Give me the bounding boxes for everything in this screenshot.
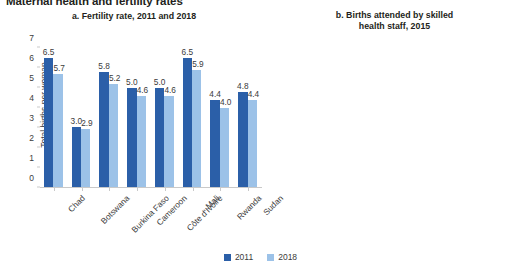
x-axis-tick-mark	[220, 188, 221, 191]
y-axis-tick-label: 7	[29, 33, 34, 43]
x-axis-category-label: Chad	[66, 193, 87, 214]
bar-value-label: 4.0	[220, 97, 232, 107]
bar-group: 3.02.9	[68, 48, 96, 187]
bar-value-label: 4.6	[164, 85, 176, 95]
bar-value-label: 2.9	[81, 118, 93, 128]
bar: 5.0	[155, 88, 164, 187]
x-axis-tick-mark	[248, 188, 249, 191]
panel-b-title: b. Births attended by skilled health sta…	[268, 10, 521, 32]
bar-group: 4.84.4	[234, 48, 262, 187]
bar-value-label: 4.4	[248, 89, 260, 99]
bar: 4.8	[238, 92, 247, 187]
figure-maternal-health: Maternal health and fertility rates a. F…	[0, 0, 521, 274]
bar-group: 6.55.7	[40, 48, 68, 187]
legend-item[interactable]: 2011	[224, 252, 253, 262]
x-axis-tick-mark	[165, 188, 166, 191]
bar: 5.9	[192, 70, 201, 187]
bar: 5.8	[99, 72, 108, 187]
bar: 2.9	[81, 129, 90, 187]
x-axis-line-a	[40, 187, 262, 188]
bar: 4.6	[137, 96, 146, 187]
y-axis-tick-label: 3	[29, 113, 34, 123]
x-axis-tick-mark	[109, 188, 110, 191]
y-axis-tick-label: 0	[29, 173, 34, 183]
bar-group: 5.04.6	[123, 48, 151, 187]
bar: 4.4	[248, 100, 257, 187]
x-axis-category-label: Botswana	[98, 193, 131, 226]
x-axis-tick-mark	[137, 188, 138, 191]
bar-value-label: 5.2	[109, 73, 121, 83]
bar: 6.5	[183, 58, 192, 187]
panel-b-title-line1: b. Births attended by skilled	[268, 10, 521, 21]
panel-skilled-births: b. Births attended by skilled health sta…	[268, 0, 521, 244]
y-axis-tick-label: 2	[29, 133, 34, 143]
legend-swatch-icon	[267, 254, 274, 261]
bar: 5.2	[109, 84, 118, 187]
y-axis-tick-label: 4	[29, 93, 34, 103]
bar: 4.4	[210, 100, 219, 187]
bar: 4.0	[220, 108, 229, 187]
legend-item[interactable]: 2018	[267, 252, 297, 262]
bar-group: 4.44.0	[207, 48, 235, 187]
legend: 20112018	[0, 252, 521, 262]
bar-group: 5.85.2	[96, 48, 124, 187]
bar-value-label: 6.5	[182, 47, 194, 57]
panel-a-title: a. Fertility rate, 2011 and 2018	[0, 11, 268, 22]
bar-value-label: 5.9	[192, 59, 204, 69]
y-axis-tick-label: 1	[29, 153, 34, 163]
legend-swatch-icon	[224, 254, 231, 261]
x-axis-category-label: Rwanda	[235, 193, 264, 222]
y-axis-tick-label: 5	[29, 73, 34, 83]
bar-value-label: 6.5	[43, 47, 55, 57]
bar-group: 6.55.9	[179, 48, 207, 187]
legend-label: 2011	[235, 252, 253, 262]
bar: 3.0	[72, 127, 81, 187]
bar-value-label: 5.7	[53, 63, 65, 73]
x-axis-tick-mark	[54, 188, 55, 191]
x-axis-tick-mark	[82, 188, 83, 191]
plot-area-fertility: Total births per woman 01234567 6.55.73.…	[40, 48, 262, 188]
x-axis-tick-mark	[193, 188, 194, 191]
bar: 5.0	[127, 88, 136, 187]
bar-value-label: 4.6	[137, 85, 149, 95]
bar: 6.5	[44, 58, 53, 187]
bar-group: 5.04.6	[151, 48, 179, 187]
y-axis-tick-label: 6	[29, 53, 34, 63]
panel-b-title-line2: health staff, 2015	[268, 21, 521, 32]
panel-fertility-rate: a. Fertility rate, 2011 and 2018 Total b…	[0, 0, 268, 244]
bar: 5.7	[53, 74, 62, 187]
bar: 4.6	[164, 96, 173, 187]
legend-label: 2018	[278, 252, 297, 262]
bar-value-label: 5.8	[98, 61, 110, 71]
